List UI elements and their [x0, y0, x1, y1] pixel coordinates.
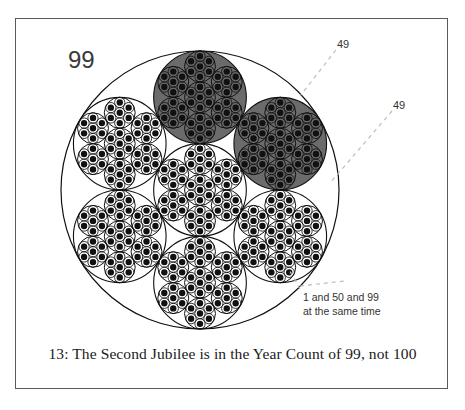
- leaf-dot-root-r4-r4-r4: [81, 254, 87, 260]
- leaf-dot-root-r4-c-c: [117, 233, 123, 239]
- leaf-dot-root-c-r3-r1: [206, 213, 212, 219]
- leaf-dot-root-r1-c-r3: [277, 151, 283, 157]
- leaf-dot-root-r4-r1-r0: [143, 207, 149, 213]
- leaf-dot-root-r3-c-r3: [197, 290, 203, 296]
- leaf-dot-root-c-r3-r0: [197, 207, 203, 213]
- leaf-dot-root-c-r4-r2: [179, 207, 185, 213]
- leaf-dot-root-r2-r5-r4: [241, 223, 247, 229]
- leaf-dot-root-r3-c-c: [197, 279, 203, 285]
- leaf-dot-root-r5-r2-r4: [134, 161, 140, 167]
- leaf-dot-root-r4-r4-r0: [90, 238, 96, 244]
- leaf-dot-root-r1-r5-r1: [259, 120, 265, 126]
- leaf-dot-root-r4-r1-r2: [152, 223, 158, 229]
- leaf-dot-root-r1-r4-r0: [250, 146, 256, 152]
- leaf-dot-root-c-c-r5: [188, 182, 194, 188]
- packing-root: [61, 51, 339, 329]
- leaf-dot-root-r4-r2-c: [143, 249, 149, 255]
- leaf-dot-root-c-r0-r0: [197, 146, 203, 152]
- leaf-dot-root-r4-c-r4: [108, 238, 114, 244]
- leaf-dot-root-r3-r0-r4: [188, 254, 194, 260]
- leaf-dot-root-r1-r3-c: [277, 171, 283, 177]
- leaf-dot-root-c-c-r2: [206, 192, 212, 198]
- leaf-dot-root-r3-r3-r3: [197, 321, 203, 327]
- leaf-dot-root-r0-r3-r2: [206, 130, 212, 136]
- leaf-dot-root-r5-r5-r5: [81, 120, 87, 126]
- leaf-dot-root-c-c-r4: [188, 192, 194, 198]
- figure-caption: 13: The Second Jubilee is in the Year Co…: [0, 345, 465, 363]
- leaf-dot-root-c-r1-r4: [215, 177, 221, 183]
- leaf-dot-root-r3-r0-r0: [197, 238, 203, 244]
- leaf-dot-root-r0-r3-r3: [197, 135, 203, 141]
- leaf-dot-root-r5-r1-r4: [134, 130, 140, 136]
- leaf-dot-root-r5-r4-r4: [81, 161, 87, 167]
- leaf-dot-root-r3-r2-c: [224, 295, 230, 301]
- leaf-dot-root-r0-r4-c: [170, 110, 176, 116]
- leaf-dot-root-r2-c-r4: [268, 238, 274, 244]
- leaf-dot-root-r1-r1-c: [304, 125, 310, 131]
- leaf-dot-root-r4-r5-r4: [81, 223, 87, 229]
- leaf-dot-root-r3-c-r2: [206, 285, 212, 291]
- leaf-dot-root-r3-r0-r1: [206, 243, 212, 249]
- leaf-dot-root-r4-r4-r1: [99, 243, 105, 249]
- leaf-dot-root-r3-r4-r4: [161, 300, 167, 306]
- leaf-dot-root-r4-r0-c: [117, 202, 123, 208]
- note-line-2: at the same time: [303, 305, 381, 317]
- leaf-dot-root-r5-r0-r1: [125, 104, 131, 110]
- leaf-dot-root-r1-c-c: [277, 140, 283, 146]
- leaf-dot-root-r0-r0-r1: [206, 58, 212, 64]
- leaf-dot-root-r3-r3-r1: [206, 305, 212, 311]
- leaf-dot-root-r1-r5-r5: [241, 120, 247, 126]
- leaf-dot-root-r4-c-r2: [125, 238, 131, 244]
- leaf-dot-root-r3-r4-c: [170, 295, 176, 301]
- leaf-dot-root-r5-r5-r4: [81, 130, 87, 136]
- leaf-dot-root-r2-r0-r3: [277, 213, 283, 219]
- leaf-dot-root-r1-r3-r3: [277, 182, 283, 188]
- leaf-dot-root-r2-r1-r5: [295, 213, 301, 219]
- leaf-dot-root-r2-r1-c: [304, 218, 310, 224]
- leaf-dot-root-r2-r2-r4: [295, 254, 301, 260]
- leaf-dot-root-r1-r3-r1: [286, 166, 292, 172]
- leaf-dot-root-r0-r1-r0: [224, 68, 230, 74]
- leaf-dot-root-r5-c-r1: [125, 135, 131, 141]
- leaf-dot-root-r4-r2-r5: [134, 243, 140, 249]
- leaf-dot-root-r2-r3-c: [277, 264, 283, 270]
- leaf-dot-root-r4-r3-c: [117, 264, 123, 270]
- leaf-dot-root-c-r5-r3: [170, 182, 176, 188]
- leaf-dot-root-r0-c-r1: [206, 89, 212, 95]
- leaf-dot-root-r0-r5-r0: [170, 68, 176, 74]
- leaf-dot-root-r1-c-r1: [286, 135, 292, 141]
- leaf-dot-root-r1-r1-r0: [304, 115, 310, 121]
- leaf-dot-root-r2-r3-r1: [286, 259, 292, 265]
- leaf-dot-root-r1-r3-r4: [268, 177, 274, 183]
- leaf-dot-root-r0-r4-r1: [179, 104, 185, 110]
- leaf-dot-root-r5-r5-r3: [90, 135, 96, 141]
- leaf-dot-root-c-r1-r5: [215, 166, 221, 172]
- leaf-dot-root-r4-r0-r2: [125, 207, 131, 213]
- leaf-dot-root-r0-r0-r2: [206, 68, 212, 74]
- leaf-dot-root-c-r5-r5: [161, 166, 167, 172]
- leaf-dot-root-r5-r1-r1: [152, 120, 158, 126]
- leaf-dot-root-c-r0-r5: [188, 151, 194, 157]
- leaf-dot-root-r4-r0-r1: [125, 197, 131, 203]
- leaf-dot-root-r1-r2-r1: [313, 151, 319, 157]
- leaf-dot-root-r3-r5-c: [170, 264, 176, 270]
- leaf-dot-root-r1-r2-r0: [304, 146, 310, 152]
- leaf-dot-root-c-r0-r4: [188, 161, 194, 167]
- leaf-dot-root-r0-c-r5: [188, 89, 194, 95]
- leaf-dot-root-r2-r2-c: [304, 249, 310, 255]
- leaf-dot-root-r0-r0-r4: [188, 68, 194, 74]
- leaf-dot-root-r3-r5-r2: [179, 269, 185, 275]
- leaf-dot-root-r0-r2-r2: [232, 115, 238, 121]
- leaf-dot-root-r1-r0-r1: [286, 104, 292, 110]
- leaf-dot-root-r0-r1-r1: [232, 74, 238, 80]
- leaf-dot-root-r4-r5-r5: [81, 213, 87, 219]
- leaf-dot-root-r4-r3-r2: [125, 269, 131, 275]
- leaf-dot-root-r0-r1-r2: [232, 84, 238, 90]
- leaf-dot-root-r4-c-r3: [117, 243, 123, 249]
- leaf-dot-root-r4-r0-r4: [108, 207, 114, 213]
- leader-line-upper-49: [300, 50, 336, 96]
- leaf-dot-root-r0-r5-r5: [161, 74, 167, 80]
- leaf-dot-root-r3-r3-r0: [197, 300, 203, 306]
- leaf-dot-root-c-r2-r2: [232, 207, 238, 213]
- figure-page: 99 49 49 1 and 50 and 99 at the same tim…: [0, 0, 465, 410]
